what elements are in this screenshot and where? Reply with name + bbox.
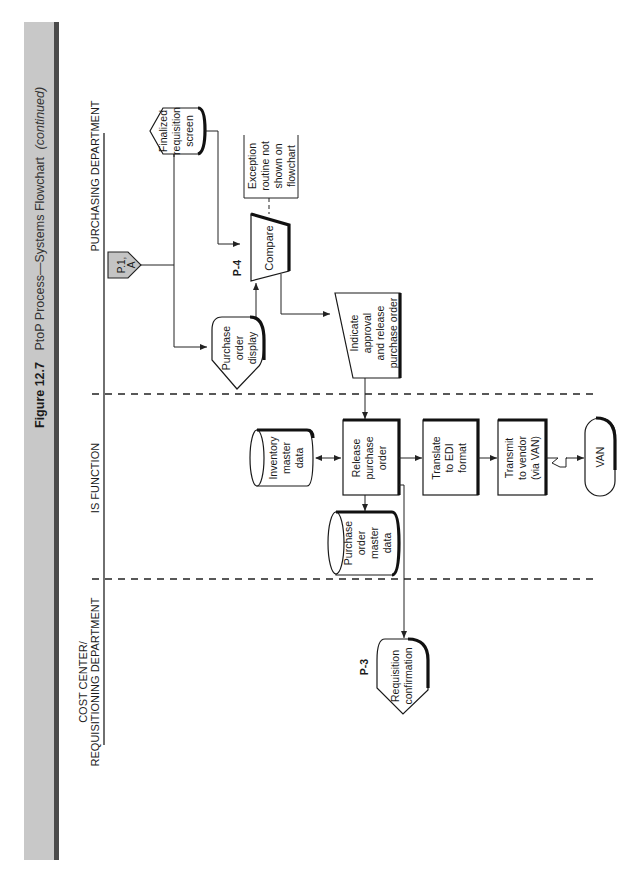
svg-text:Finalized: Finalized <box>157 110 169 152</box>
svg-text:Figure 12.7 PtoP Process: Figure 12.7 PtoP Process—Systems Flowcha… <box>33 87 47 428</box>
svg-text:format: format <box>456 443 468 473</box>
svg-text:routine not: routine not <box>259 141 271 191</box>
svg-text:shown on: shown on <box>272 143 284 188</box>
svg-text:master: master <box>368 526 380 559</box>
svg-text:purchase order: purchase order <box>387 297 399 368</box>
arrow-finalized-to-compare <box>205 131 240 244</box>
svg-text:Requisition: Requisition <box>389 650 401 702</box>
svg-text:Inventory: Inventory <box>267 436 279 480</box>
svg-text:Transmit: Transmit <box>503 438 515 479</box>
caption-stripe <box>54 22 59 860</box>
svg-text:approval: approval <box>361 313 373 353</box>
figure-subtitle: (continued) <box>33 87 47 150</box>
lane-label-cost-center-1: COST CENTER/ <box>77 640 89 723</box>
svg-text:data: data <box>293 448 305 469</box>
confirmation-ref: P-3 <box>358 659 370 676</box>
communication-link <box>546 458 567 467</box>
svg-text:order: order <box>376 445 388 470</box>
svg-text:master: master <box>280 441 292 474</box>
inventory-master-data: Inventory master data <box>250 430 313 486</box>
svg-text:to EDI: to EDI <box>443 443 455 472</box>
svg-text:Release: Release <box>350 439 362 478</box>
compare-ref: P-4 <box>231 260 243 277</box>
figure-caption-bar: Figure 12.7 PtoP Process—Systems Flowcha… <box>24 22 59 860</box>
svg-text:A: A <box>126 261 137 268</box>
svg-text:flowchart: flowchart <box>285 145 297 187</box>
finalized-requisition-screen: Finalized requisition screen <box>150 107 205 155</box>
svg-text:to vendor: to vendor <box>516 436 528 480</box>
svg-text:screen: screen <box>183 115 195 147</box>
purchase-order-master-data: Purchase order master data <box>328 512 399 575</box>
translate-to-edi: Translate to EDI format <box>423 420 478 495</box>
svg-text:and release: and release <box>374 305 386 360</box>
svg-text:Exception: Exception <box>246 143 258 189</box>
lane-label-purchasing: PURCHASING DEPARTMENT <box>89 100 101 251</box>
svg-text:Purchase: Purchase <box>220 326 232 371</box>
purchase-order-display: Purchase order display <box>212 317 264 389</box>
svg-text:order: order <box>355 530 367 555</box>
svg-text:Compare: Compare <box>263 225 275 270</box>
van-terminal: VAN <box>585 418 615 496</box>
svg-text:(via VAN): (via VAN) <box>529 436 541 480</box>
svg-text:Translate: Translate <box>430 436 442 480</box>
flowchart-page: Figure 12.7 PtoP Process—Systems Flowcha… <box>0 0 630 886</box>
arrow-compare-to-indicate <box>281 274 330 314</box>
figure-number: Figure 12.7 <box>33 362 47 428</box>
svg-text:Indicate: Indicate <box>348 314 360 351</box>
requisition-confirmation: Requisition confirmation P-3 <box>358 639 428 714</box>
svg-text:confirmation: confirmation <box>402 647 414 704</box>
lane-headers: PURCHASING DEPARTMENT IS FUNCTION COST C… <box>77 100 104 766</box>
svg-text:order: order <box>233 335 245 360</box>
arrow-release-to-confirmation <box>399 485 404 638</box>
compare-process: Compare P-4 <box>231 214 289 281</box>
svg-text:VAN: VAN <box>594 447 606 468</box>
svg-text:display: display <box>246 331 258 364</box>
offpage-connector: P.1, A <box>108 252 141 278</box>
svg-text:requisition: requisition <box>170 107 182 155</box>
lane-label-cost-center-2: REQUISITIONING DEPARTMENT <box>89 597 101 766</box>
transmit-to-vendor: Transmit to vendor (via VAN) <box>498 420 546 495</box>
release-purchase-order: Release purchase order <box>343 420 399 495</box>
svg-text:purchase: purchase <box>363 436 375 479</box>
svg-text:Purchase: Purchase <box>342 521 354 566</box>
figure-title: PtoP Process—Systems Flowchart <box>33 156 47 350</box>
exception-annotation: Exception routine not shown on flowchart <box>244 135 298 214</box>
lane-label-is-function: IS FUNCTION <box>89 443 101 513</box>
indicate-approval-input: Indicate approval and release purchase o… <box>335 293 400 378</box>
svg-text:data: data <box>381 533 393 554</box>
